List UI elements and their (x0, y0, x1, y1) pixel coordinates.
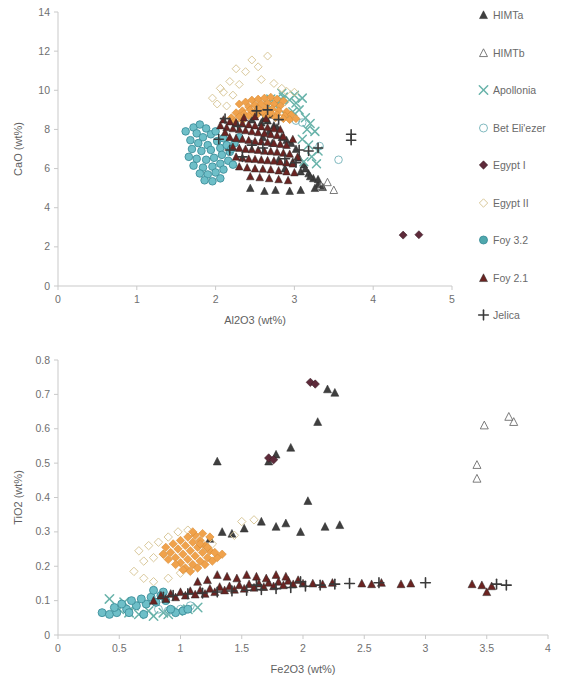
legend-item-label: Egypt II (491, 197, 529, 209)
data-point (213, 571, 221, 579)
y-tick-label: 0.5 (35, 457, 50, 469)
open-triangle-icon-glyph (480, 48, 488, 56)
x-axis-title: Fe2O3 (wt%) (271, 663, 336, 675)
data-point (164, 533, 172, 541)
data-point (264, 156, 272, 163)
x-cross-icon (476, 83, 491, 97)
data-point (233, 574, 241, 582)
y-tick-label: 0.1 (35, 594, 50, 606)
data-point (478, 581, 486, 589)
legend-item-egypt-ii[interactable]: Egypt II (476, 196, 529, 210)
data-point (149, 553, 157, 561)
legend-item-jelica[interactable]: Jelica (476, 308, 520, 322)
data-point (324, 178, 332, 185)
data-point (264, 52, 272, 60)
y-tick-label: 12 (38, 45, 50, 57)
data-point (283, 159, 291, 166)
data-point (105, 610, 113, 618)
data-point (298, 94, 306, 102)
data-point (304, 497, 312, 505)
open-triangle-icon (476, 46, 491, 60)
filled-triangle-icon-glyph (480, 11, 488, 19)
y-axis-title: CaO (wt%) (12, 122, 24, 176)
open-diamond-icon (476, 196, 491, 210)
chart-bottom-canvas: 00.10.20.30.40.50.60.70.800.511.522.533.… (0, 352, 561, 699)
series-himtb (473, 413, 518, 483)
data-point (287, 443, 295, 451)
x-tick-label: 1.5 (234, 642, 249, 654)
x-tick-label: 2 (213, 293, 219, 305)
x-cross-icon-glyph (479, 86, 487, 94)
data-point (135, 547, 143, 555)
y-tick-label: 10 (38, 84, 50, 96)
data-point (273, 148, 281, 155)
data-point (223, 102, 231, 110)
legend-item-himta[interactable]: HIMTa (476, 8, 523, 22)
legend-item-label: HIMTb (491, 47, 525, 59)
data-point (242, 68, 250, 76)
data-point (286, 150, 294, 157)
data-point (290, 91, 298, 99)
legend-item-bet-eli-ezer[interactable]: Bet Eli'ezer (476, 121, 546, 135)
data-point (321, 523, 329, 531)
data-point (140, 610, 148, 618)
data-point (272, 571, 280, 579)
data-point (184, 605, 192, 613)
data-point (206, 584, 214, 592)
data-point (150, 586, 158, 594)
data-point (468, 580, 476, 588)
legend-item-label: Foy 3.2 (491, 234, 528, 246)
data-point (202, 156, 210, 164)
data-point (185, 153, 193, 161)
data-point (140, 557, 148, 565)
data-point (98, 609, 106, 617)
data-point (347, 136, 356, 145)
data-point (275, 167, 283, 174)
legend-item-foy-3-2[interactable]: Foy 3.2 (476, 233, 528, 247)
data-point (174, 528, 182, 536)
x-tick-label: 3 (291, 293, 297, 305)
data-point (272, 186, 280, 193)
x-tick-label: 0 (55, 642, 61, 654)
data-point (314, 418, 322, 426)
data-point (210, 154, 218, 162)
x-tick-label: 3.5 (479, 642, 494, 654)
data-point (226, 77, 234, 85)
data-point (213, 100, 221, 108)
legend-item-egypt-i[interactable]: Egypt I (476, 158, 526, 172)
filled-triangle-icon (476, 271, 491, 285)
x-tick-label: 5 (449, 293, 455, 305)
chart-cao-vs-al2o3: 02468101214012345Al2O3 (wt%)CaO (wt%) (0, 0, 470, 345)
data-point (254, 146, 262, 153)
data-point (209, 177, 217, 185)
data-point (252, 572, 260, 580)
data-point (358, 579, 366, 587)
legend-item-apollonia[interactable]: Apollonia (476, 83, 536, 97)
data-point (105, 595, 113, 603)
data-point (194, 578, 202, 586)
data-point (258, 156, 266, 163)
filled-diamond-icon (476, 158, 491, 172)
legend-item-foy-2-1[interactable]: Foy 2.1 (476, 271, 528, 285)
legend-item-label: HIMTa (491, 9, 523, 21)
data-point (282, 572, 290, 580)
plus-cross-icon-glyph (479, 310, 489, 320)
data-point (218, 151, 226, 159)
data-point (220, 166, 228, 174)
series-egypt-i (399, 231, 423, 239)
data-point (324, 385, 332, 393)
data-point (125, 609, 133, 617)
x-tick-label: 1 (178, 642, 184, 654)
data-point (196, 170, 204, 178)
legend-item-himtb[interactable]: HIMTb (476, 46, 525, 60)
series-himta (206, 385, 344, 542)
data-point (229, 91, 237, 99)
filled-circle-icon-glyph (480, 236, 488, 244)
data-point (259, 165, 267, 172)
data-point (270, 79, 278, 87)
data-point (235, 581, 243, 589)
data-point (336, 521, 344, 529)
data-point (203, 576, 211, 584)
data-point (331, 388, 339, 396)
data-point (267, 166, 275, 173)
